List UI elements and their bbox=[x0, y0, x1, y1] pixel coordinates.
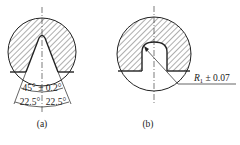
figure-b: R1 ± 0.07 (b) bbox=[116, 6, 236, 130]
diagram-canvas: 45° ± 0.2° 22.5° 22.5° (a) R1 ± 0.07 (b) bbox=[0, 0, 240, 145]
angle-right-label: 22.5° bbox=[46, 97, 67, 107]
caption-a: (a) bbox=[37, 119, 48, 130]
caption-b: (b) bbox=[142, 119, 153, 130]
round-slot bbox=[142, 42, 167, 71]
radius-label: R1 ± 0.07 bbox=[193, 73, 230, 84]
angle-total-label: 45° ± 0.2° bbox=[23, 83, 62, 93]
figure-a: 45° ± 0.2° 22.5° 22.5° (a) bbox=[8, 7, 76, 130]
angle-left-label: 22.5° bbox=[20, 97, 41, 107]
